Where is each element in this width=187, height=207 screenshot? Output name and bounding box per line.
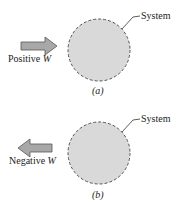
system-label: System: [141, 113, 170, 124]
arrow-label-text: Negative: [9, 155, 48, 166]
system-label: System: [141, 10, 170, 21]
arrow-label-var: W: [48, 155, 56, 166]
system-leader-line: [122, 119, 140, 132]
arrow-label-text: Positive: [8, 53, 43, 64]
arrow-label-var: W: [43, 53, 51, 64]
system-circle: [68, 19, 130, 81]
arrow-label: Positive W: [8, 53, 51, 64]
panel-caption: (b): [92, 189, 104, 200]
system-circle: [68, 122, 130, 184]
panel-a: System Positive W (a): [0, 0, 187, 103]
system-leader-line: [122, 16, 140, 29]
panel-b: System Negative W (b): [0, 103, 187, 206]
panel-caption: (a): [92, 85, 104, 96]
arrow-label: Negative W: [9, 155, 56, 166]
